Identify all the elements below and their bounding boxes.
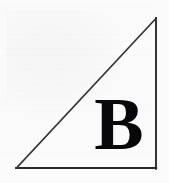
- triangle-label-b: B: [88, 90, 150, 158]
- figure-canvas: B: [0, 0, 169, 183]
